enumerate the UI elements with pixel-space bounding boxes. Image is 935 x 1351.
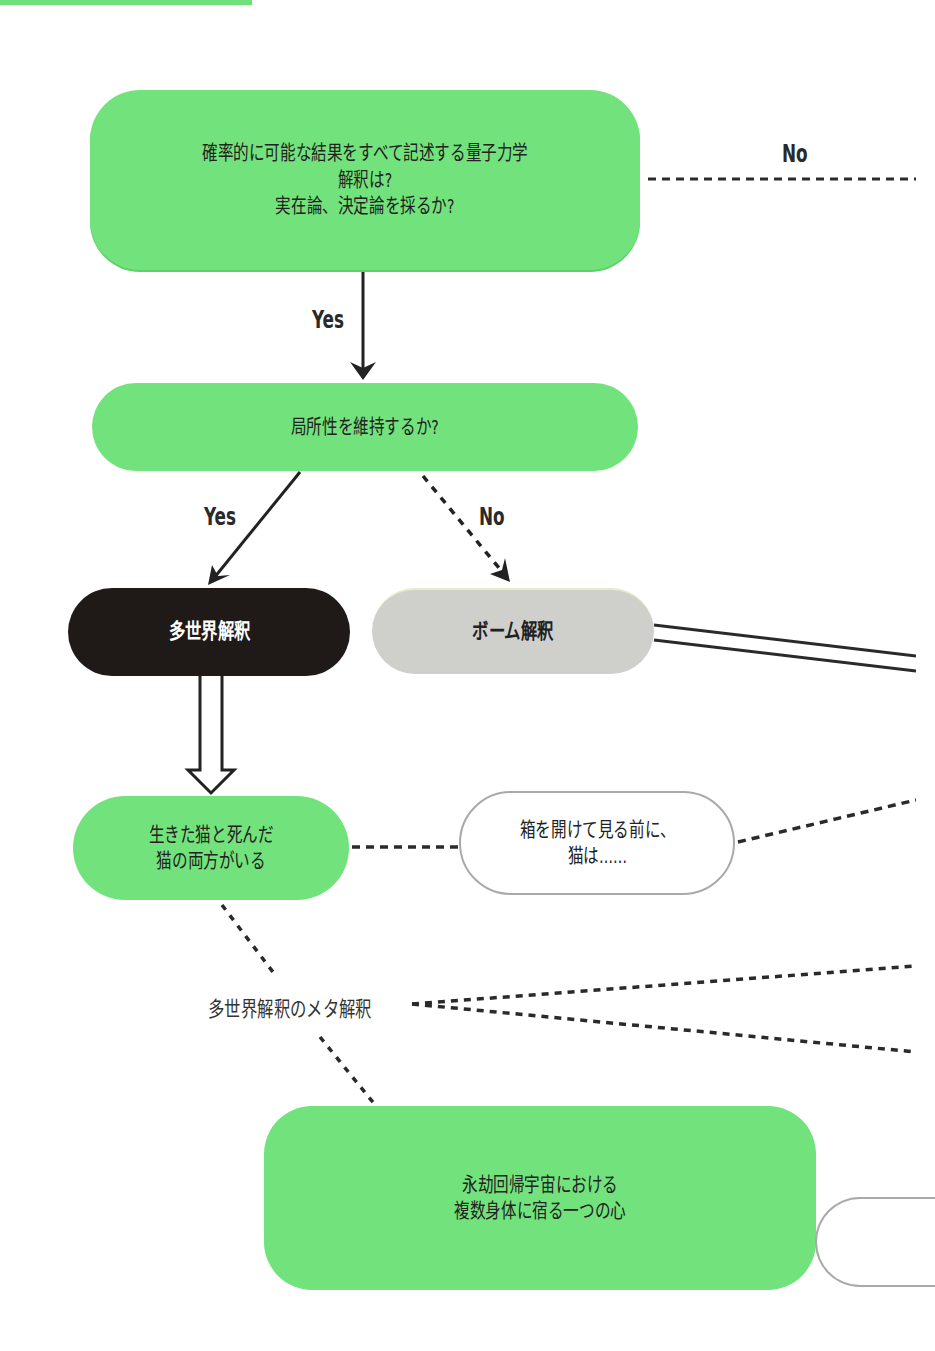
edge-meta-eternal <box>320 1037 376 1106</box>
node-box-before: 箱を開けて見る前に、 猫は…… <box>459 791 735 895</box>
edge-label-q1-no: No <box>782 140 808 168</box>
node-cat-both: 生きた猫と死んだ 猫の両方がいる <box>73 796 349 900</box>
node-eternal-recurrence: 永劫回帰宇宙における 複数身体に宿る一つの心 <box>264 1106 816 1290</box>
edge-cat-meta <box>222 905 276 976</box>
node-text: 確率的に可能な結果をすべて記述する量子力学 解釈は? 実在論、決定論を採るか? <box>202 140 528 219</box>
edge-label-q2-yes: Yes <box>204 503 236 531</box>
arrowhead-icon <box>208 565 230 585</box>
edge-bohm-out-2 <box>654 640 916 671</box>
node-locality-question: 局所性を維持するか? <box>92 383 638 471</box>
edge-label-q1-yes: Yes <box>312 306 344 334</box>
node-partial-right <box>815 1197 935 1287</box>
node-text: 箱を開けて見る前に、 猫は…… <box>519 817 674 870</box>
node-text: 多世界解釈 <box>168 618 250 646</box>
arrowhead-icon <box>490 558 510 582</box>
meta-interpretation-label: 多世界解釈のメタ解釈 <box>208 992 372 1022</box>
edge-meta-right-2 <box>412 1004 916 1052</box>
edge-meta-right-1 <box>412 966 916 1004</box>
hollow-arrow-icon <box>188 676 234 793</box>
node-text: 局所性を維持するか? <box>291 414 439 440</box>
node-text: 永劫回帰宇宙における 複数身体に宿る一つの心 <box>454 1172 626 1225</box>
edge-box-right <box>738 800 916 842</box>
node-text: 生きた猫と死んだ 猫の両方がいる <box>149 822 274 875</box>
edge-bohm-out-1 <box>654 625 916 656</box>
node-quantum-interpretation-question: 確率的に可能な結果をすべて記述する量子力学 解釈は? 実在論、決定論を採るか? <box>90 90 640 270</box>
node-many-worlds: 多世界解釈 <box>68 588 350 676</box>
node-text: ボーム解釈 <box>472 618 553 646</box>
edge-label-q2-no: No <box>479 503 505 531</box>
node-bohm: ボーム解釈 <box>372 588 654 674</box>
